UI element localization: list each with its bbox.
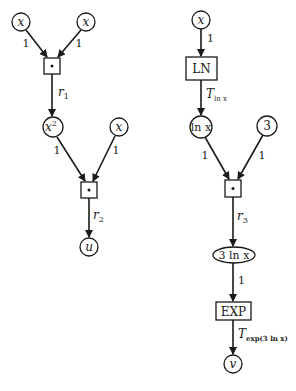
node-label: x	[83, 15, 90, 29]
constant-node-3: 3	[257, 116, 277, 136]
left-graph: x x 1 1 r1 x2 x 1 1 r2	[12, 13, 128, 256]
edge-weight: 1	[113, 144, 120, 157]
ln-function-node: LN	[186, 57, 217, 80]
node-label: 3 ln x	[219, 249, 251, 262]
edge-label-t-exp: Texp(3 ln x)	[238, 327, 288, 343]
multiply-node-2	[81, 182, 97, 198]
edge-label-r3: r3	[237, 209, 248, 225]
input-node-x-1: x	[12, 13, 30, 31]
output-node-v: v	[224, 355, 242, 373]
node-label: 3	[263, 119, 271, 133]
multiply-dot-icon	[88, 189, 91, 192]
node-x-squared: x2	[43, 117, 63, 137]
node-label: EXP	[221, 305, 246, 319]
edge-weight: 1	[207, 32, 214, 45]
right-graph: x 1 LN Tln x ln x 3 1 1 r3 3 ln	[186, 11, 288, 373]
edge-weight: 1	[238, 274, 245, 287]
edge-label-r1: r1	[58, 85, 69, 101]
edge-x3-to-mult2	[93, 136, 115, 181]
edge-weight: 1	[259, 149, 266, 162]
multiply-node-1	[44, 58, 60, 74]
node-label: x	[116, 120, 123, 134]
edge-lnx-to-mult	[205, 137, 229, 179]
multiply-node-3	[225, 180, 241, 197]
edge-label-t-ln: Tln x	[206, 87, 227, 103]
input-node-x-2: x	[77, 13, 95, 31]
edge-weight: 1	[54, 144, 61, 157]
computational-graph-diagram: x x 1 1 r1 x2 x 1 1 r2	[0, 0, 296, 391]
node-label: ln x	[191, 121, 212, 134]
node-label: u	[85, 240, 93, 254]
node-label: LN	[192, 62, 210, 76]
node-label: x	[198, 13, 205, 27]
node-label: x	[18, 15, 25, 29]
multiply-dot-icon	[51, 65, 54, 68]
exp-function-node: EXP	[216, 302, 251, 320]
output-node-u: u	[80, 238, 98, 256]
edge-weight: 1	[76, 37, 83, 50]
node-ln-x: ln x	[190, 116, 212, 138]
edge-label-r2: r2	[93, 208, 104, 224]
edge-weight: 1	[202, 149, 209, 162]
node-3-ln-x: 3 ln x	[213, 247, 255, 263]
multiply-dot-icon	[232, 187, 235, 190]
edge-x2sq-to-mult2	[57, 137, 85, 181]
node-label: v	[230, 357, 237, 371]
input-node-x-3: x	[110, 118, 128, 136]
input-node-x: x	[192, 11, 210, 29]
edge-weight: 1	[23, 37, 30, 50]
